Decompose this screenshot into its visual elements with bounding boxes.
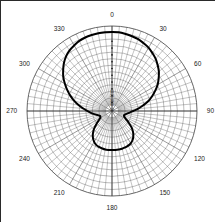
angle-label-60: 60 xyxy=(194,60,202,67)
svg-text:20: 20 xyxy=(110,94,114,98)
radial-tick-labels: 1020304050 xyxy=(110,90,114,112)
svg-text:30: 30 xyxy=(110,99,114,103)
angle-label-150: 150 xyxy=(159,189,170,196)
svg-text:40: 40 xyxy=(110,103,114,107)
svg-text:10: 10 xyxy=(110,90,114,94)
figure-frame: 1020304050 03060901201501802102402703003… xyxy=(0,0,215,222)
angle-label-240: 240 xyxy=(19,155,30,162)
angle-label-30: 30 xyxy=(159,25,167,32)
angle-label-180: 180 xyxy=(107,204,118,211)
angle-label-120: 120 xyxy=(194,155,205,162)
svg-text:50: 50 xyxy=(110,108,114,112)
angle-label-330: 330 xyxy=(54,25,65,32)
chart-background xyxy=(1,1,215,222)
angle-label-270: 270 xyxy=(6,107,17,114)
angle-label-0: 0 xyxy=(110,11,114,18)
angle-label-210: 210 xyxy=(54,189,65,196)
polar-chart: 1020304050 03060901201501802102402703003… xyxy=(1,1,215,222)
angle-label-90: 90 xyxy=(207,107,215,114)
angle-label-300: 300 xyxy=(19,60,30,67)
